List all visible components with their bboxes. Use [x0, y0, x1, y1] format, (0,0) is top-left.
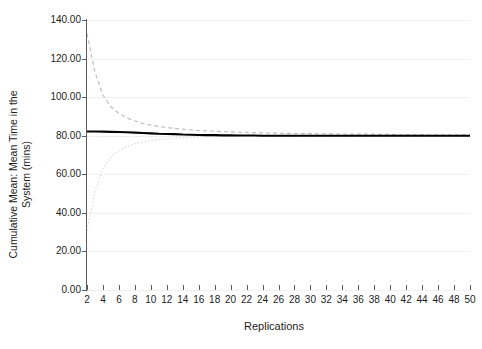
x-axis-tick: [470, 285, 471, 290]
y-axis-tick: [82, 290, 87, 291]
y-axis-tick-label: 120.00: [35, 53, 81, 64]
x-axis-tick-label: 50: [460, 294, 480, 305]
y-axis-tick-label: 80.00: [35, 130, 81, 141]
plot-area: 2468101214161820222426283032343638404244…: [87, 20, 470, 290]
y-axis-title-line1: Cumulative Mean: Mean Time in the: [7, 90, 20, 258]
y-axis-tick-label: 20.00: [35, 245, 81, 256]
y-axis-tick-label: 0.00: [35, 284, 81, 295]
chart-container: Cumulative Mean: Mean Time in the System…: [0, 0, 482, 349]
grid-line: [87, 290, 470, 291]
series-cumulative-mean: [87, 131, 470, 135]
y-axis-tick-label: 140.00: [35, 14, 81, 25]
y-axis-tick-label: 100.00: [35, 91, 81, 102]
series-svg: [87, 20, 470, 290]
y-axis-tick-label: 40.00: [35, 207, 81, 218]
x-axis-title: Replications: [78, 320, 470, 332]
series-upper-confidence-limit: [87, 34, 470, 135]
y-axis-tick-label: 60.00: [35, 168, 81, 179]
series-lower-confidence-limit: [87, 136, 470, 230]
y-axis-tick-labels: 0.0020.0040.0060.0080.00100.00120.00140.…: [31, 20, 81, 290]
